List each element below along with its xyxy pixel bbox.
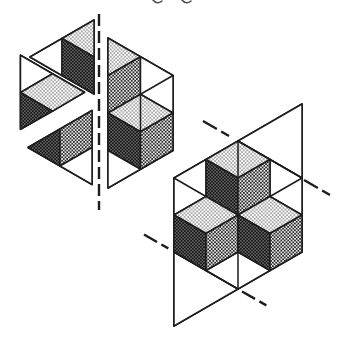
figure-content (21, 0, 337, 326)
glide-axis-dash-left (144, 235, 172, 251)
figure-canvas (0, 0, 338, 347)
glide-axis-dash-right (304, 180, 336, 199)
left-figure-exploded-hexagon (21, 14, 174, 210)
cropped-text-descender-1 (153, 0, 162, 3)
cropped-text-descender-2 (182, 0, 191, 3)
glide-axis-dash-top-left (203, 121, 236, 140)
glide-axis-dash-bottom (242, 292, 271, 309)
piece-c-dark-left-triangle (28, 129, 60, 166)
scanned-book-figure (0, 0, 338, 347)
